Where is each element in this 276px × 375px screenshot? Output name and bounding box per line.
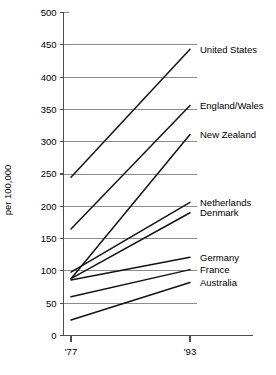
y-tick-label-250: 250 [41,168,57,179]
series-line-australia [71,283,190,320]
x-tick-label-1: '93 [184,346,196,357]
y-axis-title: per 100,000 [2,165,13,216]
series-label-england-wales: England/Wales [200,100,264,111]
y-tick-label-150: 150 [41,233,57,244]
series-label-new-zealand: New Zealand [200,129,256,140]
y-tick-label-400: 400 [41,72,57,83]
series-line-united-states [71,49,190,177]
series-line-netherlands [71,202,190,272]
series-label-netherlands: Netherlands [200,197,251,208]
series-line-france [71,270,190,297]
series-line-england-wales [71,106,190,229]
y-tick-label-50: 50 [46,298,57,309]
x-tick-group: '77'93 [65,336,196,357]
y-tick-label-200: 200 [41,201,57,212]
x-tick-label-0: '77 [65,346,77,357]
series-label-united-states: United States [200,44,257,55]
series-label-france: France [200,264,230,275]
series-label-australia: Australia [200,277,238,288]
series-lines-group [71,49,190,320]
chart-container: 050100150200250300350400450500 '77'93 Un… [0,0,276,375]
series-label-denmark: Denmark [200,207,239,218]
line-chart: 050100150200250300350400450500 '77'93 Un… [0,0,276,375]
y-tick-label-500: 500 [41,7,57,18]
y-tick-group: 050100150200250300350400450500 [41,7,64,341]
y-tick-label-100: 100 [41,265,57,276]
y-tick-label-350: 350 [41,104,57,115]
y-tick-label-300: 300 [41,136,57,147]
series-label-germany: Germany [200,252,239,263]
series-labels-group: United StatesEngland/WalesNew ZealandNet… [200,44,264,288]
y-tick-label-0: 0 [51,330,56,341]
y-tick-label-450: 450 [41,39,57,50]
